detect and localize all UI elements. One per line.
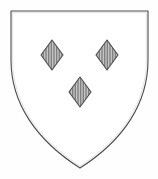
shield-drawing [0, 0, 158, 179]
heraldic-shield-image: Argent, three lozenges gules Heraldic sh… [0, 0, 158, 179]
